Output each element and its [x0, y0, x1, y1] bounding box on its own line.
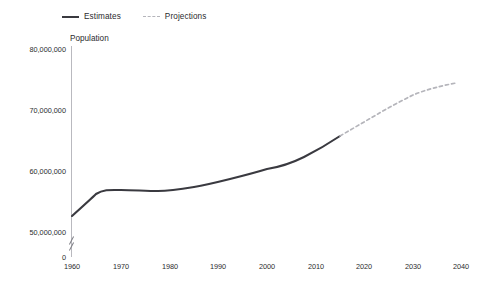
x-tick-label: 2010: [308, 262, 324, 271]
x-axis-tick-labels: 1960 1970 1980 1990 2000 2010 2020 2030 …: [0, 262, 485, 276]
x-tick-label: 1980: [162, 262, 178, 271]
projections-line-path: [340, 83, 456, 136]
estimates-line-path: [72, 136, 340, 216]
x-tick-label: 2030: [405, 262, 421, 271]
x-tick-label: 1960: [64, 262, 80, 271]
x-tick-label: 2040: [453, 262, 469, 271]
x-tick-label: 2000: [259, 262, 275, 271]
plot-area: [0, 0, 485, 293]
population-line-chart: Estimates Projections Population 80,000,…: [0, 0, 485, 293]
x-tick-label: 1990: [210, 262, 226, 271]
x-tick-label: 2020: [356, 262, 372, 271]
x-tick-label: 1970: [113, 262, 129, 271]
